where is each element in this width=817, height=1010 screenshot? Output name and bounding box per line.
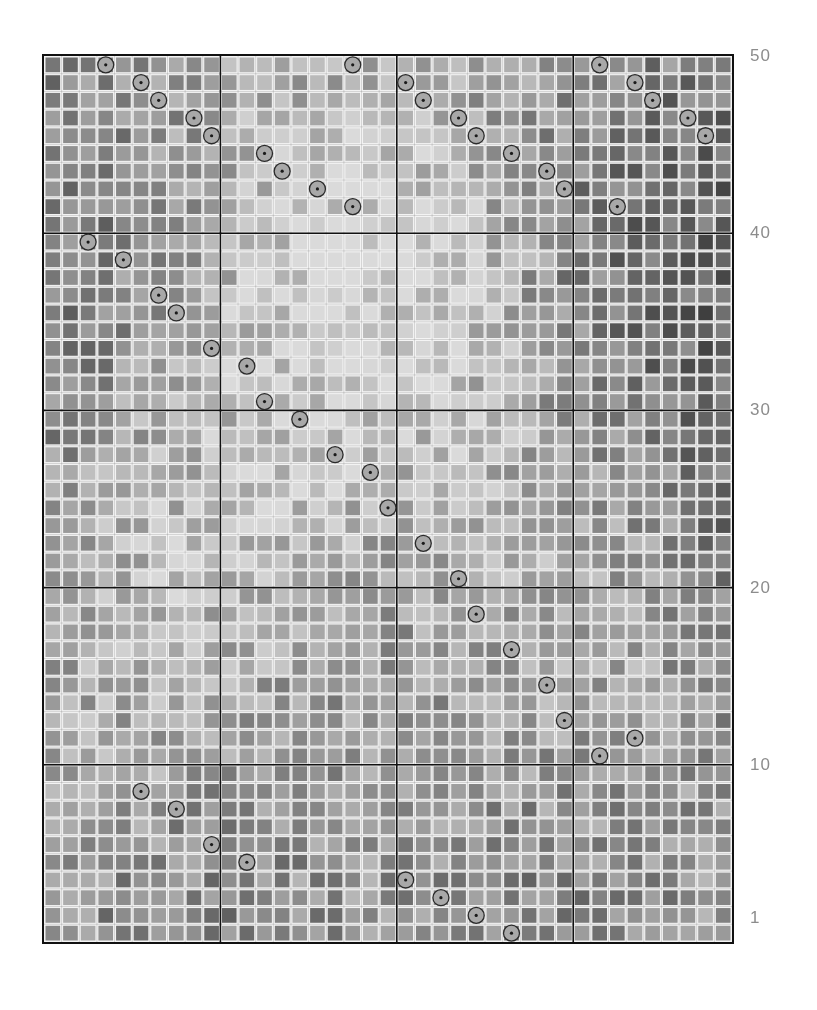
heatmap-plot-area[interactable] [42,54,734,944]
y-tick-label: 50 [750,46,771,66]
y-tick-label: 10 [750,755,771,775]
y-tick-label: 20 [750,578,771,598]
y-tick-label: 1 [750,908,760,928]
marker-overlay[interactable] [44,56,732,942]
figure-root: 50403020101 [0,0,817,1010]
y-tick-label: 40 [750,223,771,243]
y-axis-right: 50403020101 [736,54,816,944]
y-tick-label: 30 [750,400,771,420]
